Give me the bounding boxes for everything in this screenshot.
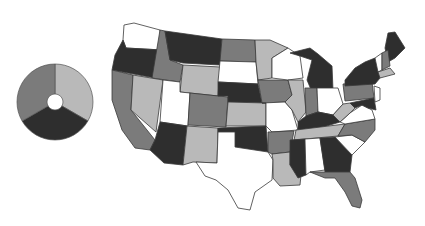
- us-choropleth-map: [0, 0, 425, 226]
- state-NY[interactable]: [345, 58, 380, 86]
- state-IN[interactable]: [305, 88, 318, 116]
- state-ND[interactable]: [220, 39, 256, 62]
- state-SD[interactable]: [218, 61, 258, 84]
- state-KS[interactable]: [226, 102, 266, 126]
- state-NM[interactable]: [183, 126, 218, 165]
- state-WY[interactable]: [180, 65, 220, 96]
- state-FL[interactable]: [310, 172, 362, 208]
- state-NJ[interactable]: [374, 86, 380, 102]
- state-MT[interactable]: [165, 31, 222, 65]
- state-CO[interactable]: [188, 93, 228, 127]
- state-WA[interactable]: [123, 23, 162, 50]
